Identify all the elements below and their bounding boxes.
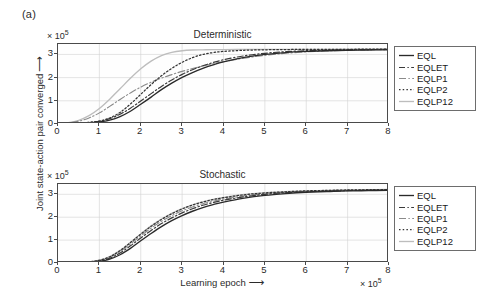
x-tick-mark [347,123,348,126]
x-tick-mark [388,262,389,265]
x-tick-label: 4 [216,265,230,275]
x-tick-label: 7 [340,126,354,136]
x-tick-mark [223,262,224,265]
exp-superscript: 5 [65,29,69,36]
subplot-title-deterministic: Deterministic [194,29,252,40]
legend-stochastic[interactable]: EQLEQLETEQLP1EQLP2EQLP12 [394,186,476,251]
x-tick-mark [98,262,99,265]
plot-canvas [58,44,388,123]
legend-item-eql[interactable]: EQL [398,190,471,201]
x-tick-label: 6 [298,265,312,275]
legend-item-eqlp1[interactable]: EQLP1 [398,73,471,84]
legend-line-sample-eqlet [398,202,415,213]
y-axis-arrow-icon: ⟶ [34,56,45,72]
x-tick-mark [57,262,58,265]
legend-item-eqlp1[interactable]: EQLP1 [398,213,471,224]
exp-mantissa: × 10 [360,279,378,289]
plot-area-deterministic [57,43,388,123]
legend-line-sample-eqlp2 [398,224,415,235]
y-tick-mark [54,53,57,54]
legend-item-eqlp2[interactable]: EQLP2 [398,84,471,95]
y-tick-label: 3 [39,188,53,198]
legend-item-eqlp2[interactable]: EQLP2 [398,224,471,235]
x-tick-mark [347,262,348,265]
x-tick-mark [57,123,58,126]
legend-label: EQLP2 [417,224,448,235]
x-axis-label: Learning epoch⟶ [180,277,264,288]
plot-area-stochastic [57,183,388,262]
legend-label: EQLP1 [417,213,448,224]
legend-item-eql[interactable]: EQL [398,50,471,61]
legend-label: EQLP12 [417,96,453,107]
legend-line-sample-eqlp2 [398,84,415,95]
legend-item-eqlet[interactable]: EQLET [398,61,471,72]
x-tick-label: 3 [174,265,188,275]
legend-deterministic[interactable]: EQLEQLETEQLP1EQLP2EQLP12 [394,46,476,111]
x-tick-mark [388,123,389,126]
y-tick-label: 2 [39,72,53,82]
legend-label: EQLET [417,202,448,213]
x-scale-exponent: × 105 [360,277,382,289]
x-tick-label: 0 [50,265,64,275]
x-tick-mark [305,123,306,126]
y-tick-label: 1 [39,234,53,244]
x-tick-mark [181,123,182,126]
y-tick-label: 3 [39,48,53,58]
x-tick-mark [140,262,141,265]
x-tick-label: 1 [91,265,105,275]
x-axis-arrow-icon: ⟶ [249,277,265,288]
x-tick-mark [140,123,141,126]
legend-label: EQLET [417,62,448,73]
y-tick-label: 1 [39,95,53,105]
x-tick-mark [305,262,306,265]
x-tick-label: 3 [174,126,188,136]
legend-line-sample-eqlp12 [398,236,415,247]
legend-line-sample-eqlp12 [398,96,415,107]
y-tick-mark [54,77,57,78]
x-tick-mark [264,123,265,126]
x-tick-label: 0 [50,126,64,136]
y-tick-mark [54,100,57,101]
x-tick-label: 5 [257,265,271,275]
x-tick-label: 1 [91,126,105,136]
x-tick-label: 8 [381,126,395,136]
x-tick-label: 7 [340,265,354,275]
y-scale-exponent-bottom: × 105 [47,169,69,181]
legend-label: EQL [417,50,436,61]
legend-item-eqlet[interactable]: EQLET [398,201,471,212]
series-line-eqlet [58,49,388,123]
x-tick-mark [264,262,265,265]
exp-superscript: 5 [378,277,382,284]
plot-canvas [58,184,388,262]
legend-item-eqlp12[interactable]: EQLP12 [398,96,471,107]
legend-label: EQLP2 [417,84,448,95]
series-line-eql [58,50,388,123]
legend-label: EQL [417,190,436,201]
x-tick-mark [181,262,182,265]
x-tick-label: 2 [133,265,147,275]
figure-a: (a) Joint state-action pair converged⟶ ×… [0,0,485,300]
y-tick-mark [54,193,57,194]
y-tick-mark [54,216,57,217]
x-tick-label: 6 [298,126,312,136]
legend-line-sample-eql [398,50,415,61]
legend-line-sample-eqlp1 [398,213,415,224]
legend-line-sample-eqlp1 [398,73,415,84]
y-tick-mark [54,239,57,240]
x-tick-label: 2 [133,126,147,136]
series-line-eqlet [58,190,388,262]
x-tick-label: 8 [381,265,395,275]
y-tick-label: 2 [39,211,53,221]
x-tick-label: 4 [216,126,230,136]
exp-mantissa: × 10 [47,31,65,41]
exp-superscript: 5 [65,169,69,176]
x-tick-label: 5 [257,126,271,136]
exp-mantissa: × 10 [47,171,65,181]
series-line-eql [58,190,388,262]
legend-line-sample-eqlet [398,62,415,73]
series-line-eqlp1 [58,50,388,123]
x-axis-label-text: Learning epoch [180,277,246,288]
subplot-title-stochastic: Stochastic [199,169,245,180]
x-tick-mark [98,123,99,126]
legend-item-eqlp12[interactable]: EQLP12 [398,236,471,247]
